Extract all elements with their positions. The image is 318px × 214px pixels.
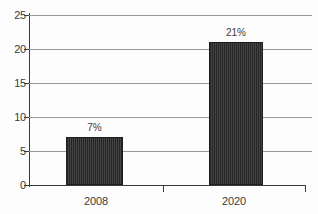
x-axis-tickmark (305, 185, 306, 192)
y-axis-tick-label: 20 (4, 44, 26, 55)
y-axis-tick-label: 10 (4, 112, 26, 123)
x-axis-line (29, 185, 306, 186)
y-axis-tick-labels: 25 20 15 10 5 0 (0, 0, 26, 214)
x-axis-category-label-2020: 2020 (163, 195, 305, 207)
bar-2020 (209, 42, 263, 185)
y-axis-tick-label: 15 (4, 78, 26, 89)
gridline-15 (29, 83, 312, 84)
y-axis-tick-label: 0 (4, 180, 26, 191)
plot-area: 7% 21% (29, 15, 312, 185)
y-axis-tick-label: 5 (4, 146, 26, 157)
bar-value-label-2008: 7% (66, 123, 123, 133)
x-axis-tickmark (163, 185, 164, 192)
bar-chart: 25 20 15 10 5 0 7% 21% 2008 2020 (0, 0, 318, 214)
gridline-10 (29, 117, 312, 118)
bar-value-label-2020: 21% (209, 28, 263, 38)
gridline-25 (29, 15, 312, 16)
gridline-20 (29, 49, 312, 50)
bar-2008 (66, 137, 123, 185)
y-axis-tick-label: 25 (4, 10, 26, 21)
x-axis-category-label-2008: 2008 (29, 195, 163, 207)
